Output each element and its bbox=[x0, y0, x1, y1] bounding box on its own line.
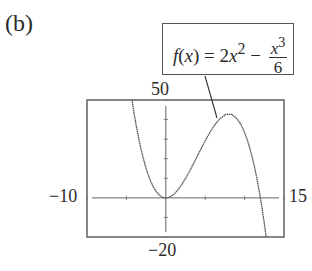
fraction-numerator: x3 bbox=[269, 34, 288, 58]
minus-sign: − bbox=[245, 45, 265, 66]
y-max-label: 50 bbox=[151, 79, 169, 100]
function-curve bbox=[132, 100, 266, 238]
y-min-label: −20 bbox=[148, 240, 176, 261]
formula-callout: f(x) = 2x2 − x36 bbox=[162, 23, 294, 75]
fraction-denominator: 6 bbox=[269, 58, 288, 77]
numerator-exponent: 3 bbox=[278, 34, 285, 50]
fraction: x36 bbox=[269, 34, 288, 77]
x-max-label: 15 bbox=[289, 186, 307, 207]
formula-text: f(x) = 2x2 − x36 bbox=[173, 36, 287, 79]
callout-leader bbox=[205, 76, 217, 118]
x-min-label: −10 bbox=[49, 186, 77, 207]
